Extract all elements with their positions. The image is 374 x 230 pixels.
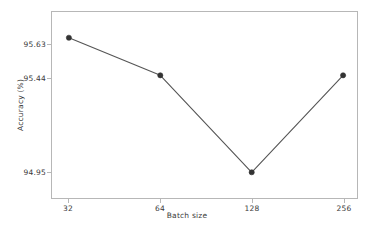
data-point-marker (66, 35, 71, 40)
figure-canvas: Accuracy (%) 95.63 95.44 94.95 32 64 128… (0, 0, 374, 230)
y-tick-label: 95.63 (20, 40, 46, 49)
data-point-marker (341, 73, 346, 78)
line-chart-svg (52, 12, 357, 198)
x-axis-title: Batch size (0, 211, 374, 220)
y-tick-label: 95.44 (20, 74, 46, 83)
x-tick-mark (252, 199, 253, 203)
y-axis-title: Accuracy (%) (12, 0, 30, 230)
x-tick-mark (68, 199, 69, 203)
data-series-line (69, 38, 343, 173)
data-marker-group (66, 35, 345, 175)
data-point-marker (249, 170, 254, 175)
x-tick-mark (344, 199, 345, 203)
plot-area (51, 11, 358, 199)
data-point-marker (158, 73, 163, 78)
y-axis-title-text: Accuracy (%) (16, 79, 25, 131)
y-tick-label: 94.95 (20, 168, 46, 177)
x-tick-mark (160, 199, 161, 203)
